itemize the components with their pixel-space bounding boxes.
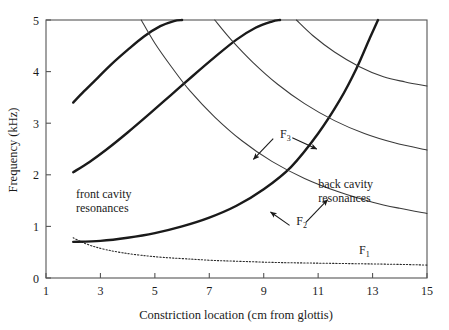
series-curve xyxy=(73,20,182,103)
plot-frame xyxy=(46,20,427,278)
back-cavity-resonances-line1: back cavity xyxy=(318,177,373,191)
x-axis-ticks: 13579111315 xyxy=(43,273,433,298)
y-tick-label: 2 xyxy=(33,168,39,182)
y-tick-label: 0 xyxy=(33,272,39,286)
series-curve xyxy=(141,20,427,214)
label-f2: F2 xyxy=(296,214,307,230)
series-curve xyxy=(296,20,427,86)
x-tick-label: 11 xyxy=(312,284,324,298)
series-curve xyxy=(73,20,280,172)
arrow-f2-left xyxy=(271,212,290,225)
label-f1: F1 xyxy=(359,243,370,259)
x-tick-label: 15 xyxy=(421,284,433,298)
back-cavity-resonances-line2: resonances xyxy=(318,191,371,205)
label-f1-subscript: 1 xyxy=(366,250,370,259)
x-tick-label: 9 xyxy=(261,284,267,298)
label-f3: F3 xyxy=(280,127,291,143)
y-tick-label: 4 xyxy=(33,65,39,79)
x-tick-label: 7 xyxy=(206,284,212,298)
resonance-frequency-chart: 13579111315 012345 Constriction location… xyxy=(0,0,449,330)
figure-container: 13579111315 012345 Constriction location… xyxy=(0,0,449,330)
front-cavity-resonances-line2: resonances xyxy=(76,201,129,215)
front-cavity-resonances-line1: front cavity xyxy=(76,187,132,201)
x-tick-label: 1 xyxy=(43,284,49,298)
annotation-arrows xyxy=(253,138,327,226)
label-f2-subscript: 2 xyxy=(303,221,307,230)
y-tick-label: 5 xyxy=(33,14,39,28)
label-f3-subscript: 3 xyxy=(287,134,291,143)
y-axis-ticks: 012345 xyxy=(33,14,51,286)
y-tick-label: 1 xyxy=(33,220,39,234)
x-tick-label: 5 xyxy=(152,284,158,298)
y-axis-title: Frequency (kHz) xyxy=(6,107,20,192)
x-tick-label: 3 xyxy=(97,284,103,298)
x-axis-title: Constriction location (cm from glottis) xyxy=(139,308,333,322)
y-tick-label: 3 xyxy=(33,117,39,131)
data-curves xyxy=(73,20,427,265)
series-curve xyxy=(73,238,427,265)
x-tick-label: 13 xyxy=(367,284,379,298)
